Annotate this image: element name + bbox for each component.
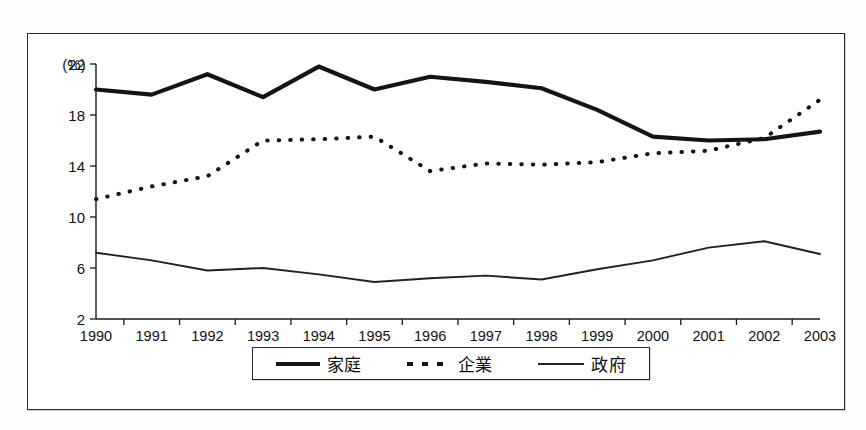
- chart-frame: 2610141822 19901991199219931994199519961…: [27, 33, 845, 410]
- series-line-households: [96, 67, 820, 141]
- x-axis-tick-label: 2000: [637, 328, 669, 344]
- chart-legend: 家庭 企業 政府: [252, 347, 650, 380]
- dotted-line-icon: [407, 362, 451, 366]
- legend-label-corporations: 企業: [458, 351, 493, 376]
- y-axis-tick-label: 2: [77, 311, 85, 328]
- x-axis-tick-label: 1998: [525, 328, 557, 344]
- x-axis-tick-label: 1992: [191, 328, 223, 344]
- x-axis-tick-label: 1999: [581, 328, 613, 344]
- x-axis-tick-label: 1995: [358, 328, 390, 344]
- y-axis-tick-label: 10: [68, 209, 85, 226]
- legend-item-corporations: 企業: [407, 351, 493, 376]
- y-axis-tick-label: 18: [68, 107, 85, 124]
- solid-thin-line-icon: [538, 363, 584, 365]
- x-axis-tick-label: 2002: [748, 328, 780, 344]
- axes-group: [90, 64, 820, 325]
- x-axis-tick-labels: 1990199119921993199419951996199719981999…: [80, 328, 836, 344]
- y-axis-ticks: [90, 64, 96, 319]
- x-axis-tick-label: 2003: [804, 328, 836, 344]
- data-series-group: [96, 67, 820, 282]
- x-axis-tick-label: 1993: [247, 328, 279, 344]
- y-axis-unit-label: (%): [62, 56, 85, 73]
- y-axis-tick-label: 6: [77, 260, 85, 277]
- x-axis-tick-label: 1991: [136, 328, 168, 344]
- x-axis-tick-label: 1994: [303, 328, 335, 344]
- y-axis-tick-label: 14: [68, 158, 85, 175]
- series-line-corporations: [96, 100, 820, 199]
- x-axis-tick-label: 2001: [692, 328, 724, 344]
- x-axis-ticks: [124, 319, 792, 325]
- legend-label-government: 政府: [591, 351, 626, 376]
- x-axis-tick-label: 1997: [470, 328, 502, 344]
- legend-item-government: 政府: [538, 351, 626, 376]
- solid-thick-line-icon: [276, 362, 320, 366]
- y-axis-tick-labels: 2610141822: [68, 56, 85, 328]
- legend-label-households: 家庭: [327, 351, 362, 376]
- legend-item-households: 家庭: [276, 351, 362, 376]
- chart-figure: 2610141822 19901991199219931994199519961…: [0, 0, 866, 430]
- series-line-government: [96, 241, 820, 282]
- x-axis-tick-label: 1990: [80, 328, 112, 344]
- x-axis-tick-label: 1996: [414, 328, 446, 344]
